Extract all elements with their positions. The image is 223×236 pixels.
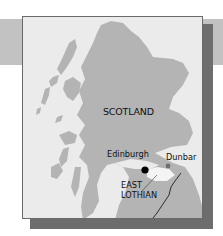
edinburgh-marker-icon [141, 166, 148, 173]
scotland-map-graphic [23, 17, 203, 219]
label-edinburgh: Edinburgh [107, 150, 149, 158]
isle-harris [49, 75, 59, 87]
isle-small [55, 115, 63, 123]
isle-mull [59, 131, 77, 145]
label-east-lothian-line1: EAST [121, 180, 157, 190]
isle-uist [41, 87, 50, 105]
isle-lewis [57, 39, 77, 75]
kintyre [71, 167, 81, 197]
isle-skye [63, 77, 81, 101]
label-east-lothian-line2: LOTHIAN [121, 190, 157, 200]
label-east-lothian: EAST LOTHIAN [121, 180, 157, 200]
label-scotland: SCOTLAND [103, 107, 154, 117]
isle-barra [36, 107, 41, 115]
isle-jura [59, 147, 69, 167]
map-frame: SCOTLAND Edinburgh Dunbar EAST LOTHIAN [22, 16, 203, 219]
dunbar-marker-icon [166, 164, 171, 169]
label-dunbar: Dunbar [166, 153, 196, 161]
